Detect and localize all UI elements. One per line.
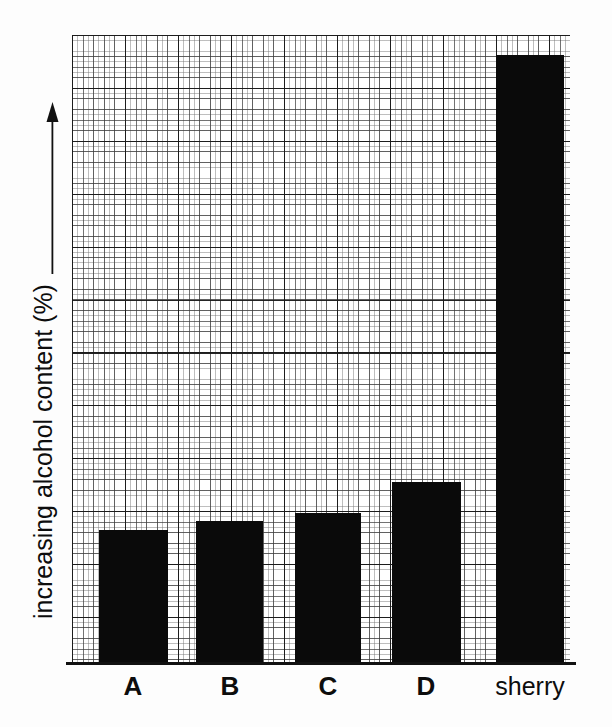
bar-d — [392, 482, 461, 663]
bar-a — [99, 530, 168, 663]
x-tick-label-c: C — [278, 670, 378, 702]
bar-b — [196, 521, 263, 663]
x-tick-label-b: B — [180, 670, 280, 702]
bar-sherry — [496, 55, 564, 663]
y-axis-label: increasing alcohol content (%) — [29, 192, 58, 712]
chart-page: A B C D sherry increasing alcohol conten… — [0, 0, 612, 727]
bar-c — [295, 513, 361, 663]
x-tick-label-a: A — [83, 670, 183, 702]
x-tick-label-d: D — [376, 670, 476, 702]
x-axis-line — [66, 662, 576, 665]
x-tick-label-sherry: sherry — [480, 670, 580, 702]
